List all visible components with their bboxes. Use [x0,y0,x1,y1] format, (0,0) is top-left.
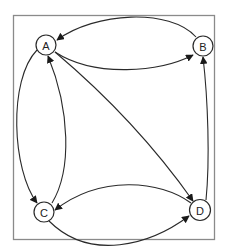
node-c: C [34,202,54,222]
edge-c-to-a [48,56,66,203]
edge-d-to-b [203,57,208,200]
edge-a-to-d [55,52,193,201]
node-a: A [36,35,56,55]
node-d: D [190,200,211,221]
edge-a-to-b [55,52,193,70]
node-c-label: C [40,207,48,219]
edge-a-to-c [17,50,37,203]
node-a-label: A [42,40,50,52]
node-b-label: B [199,41,206,53]
edge-c-to-d [49,216,189,245]
graph-diagram: A B C D [0,0,227,251]
edge-d-to-c [55,185,191,210]
node-b: B [193,36,213,56]
node-d-label: D [196,205,204,217]
edge-b-to-a [57,17,196,40]
